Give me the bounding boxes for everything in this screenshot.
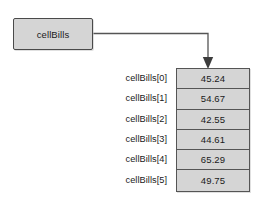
array-cell-value: 54.67 <box>201 93 225 104</box>
array-cell-value: 45.24 <box>201 73 225 84</box>
array-cells-table: 45.24 54.67 42.55 44.61 65.29 49.75 <box>176 68 250 192</box>
array-cell: 44.61 <box>177 130 249 150</box>
array-index-label-column: cellBills[0] cellBills[1] cellBills[2] c… <box>108 68 172 190</box>
array-reference-diagram: cellBills cellBills[0] cellBills[1] cell… <box>0 0 260 201</box>
array-index-label: cellBills[1] <box>126 93 167 103</box>
index-label-row: cellBills[3] <box>108 129 172 149</box>
reference-variable-box: cellBills <box>13 18 93 50</box>
index-label-row: cellBills[4] <box>108 149 172 169</box>
array-index-label: cellBills[0] <box>126 73 167 83</box>
array-cell-value: 65.29 <box>201 154 225 165</box>
array-cell-value: 49.75 <box>201 175 225 186</box>
index-label-row: cellBills[5] <box>108 169 172 189</box>
index-label-row: cellBills[0] <box>108 68 172 88</box>
array-index-label: cellBills[2] <box>126 114 167 124</box>
array-index-label: cellBills[4] <box>126 154 167 164</box>
array-cell: 54.67 <box>177 89 249 109</box>
array-cell-value: 44.61 <box>201 134 225 145</box>
array-cell-value: 42.55 <box>201 114 225 125</box>
array-cell: 49.75 <box>177 170 249 190</box>
array-index-label: cellBills[3] <box>126 134 167 144</box>
array-cell: 45.24 <box>177 69 249 89</box>
array-cell: 65.29 <box>177 150 249 170</box>
array-index-label: cellBills[5] <box>126 175 167 185</box>
index-label-row: cellBills[2] <box>108 109 172 129</box>
connector-line <box>94 34 209 61</box>
array-cell: 42.55 <box>177 110 249 130</box>
index-label-row: cellBills[1] <box>108 88 172 108</box>
reference-variable-label: cellBills <box>37 29 70 40</box>
